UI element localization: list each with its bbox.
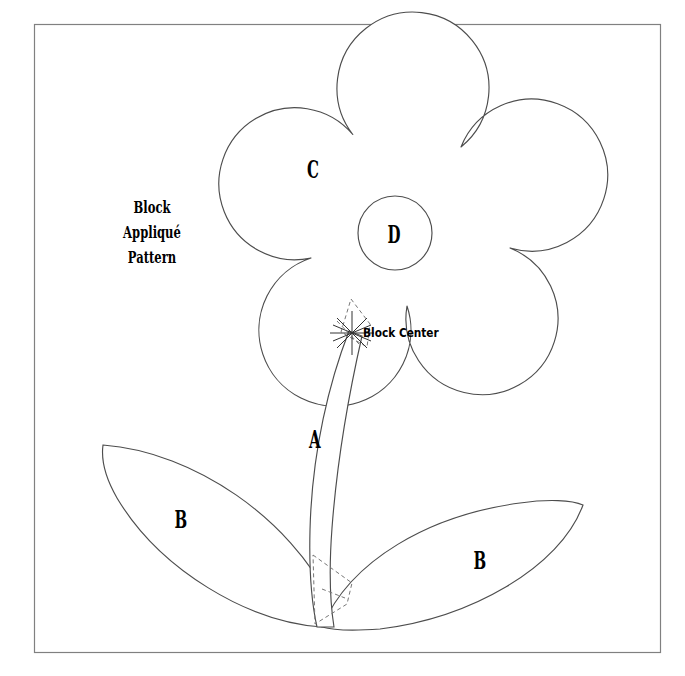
piece-label-b-right: B	[474, 548, 487, 573]
pattern-drawing-canvas	[0, 0, 685, 676]
piece-label-d: D	[387, 222, 400, 247]
piece-label-c: C	[307, 157, 319, 182]
title-line-3: Pattern	[98, 245, 207, 270]
piece-label-a: A	[309, 427, 321, 452]
block-center-label: Block Center	[363, 326, 439, 340]
title-line-1: Block	[98, 195, 207, 220]
piece-label-b-left: B	[175, 507, 188, 532]
title-line-2: Appliqué	[98, 220, 207, 245]
page-title: Block Appliqué Pattern	[72, 195, 232, 270]
pattern-sheet: Block Appliqué Pattern Block Center A B …	[0, 0, 685, 676]
